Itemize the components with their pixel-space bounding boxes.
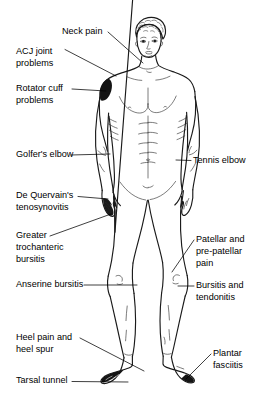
leader-tennis-elbow	[176, 160, 191, 161]
label-golfers-elbow: Golfer's elbow	[16, 149, 74, 159]
label-tarsal-tunnel: Tarsal tunnel	[16, 375, 68, 385]
anatomical-pain-diagram: Neck pain ACJ joint problems Rotator cuf…	[0, 0, 265, 403]
label-tennis-elbow: Tennis elbow	[193, 155, 246, 165]
label-anserine-bursitis: Anserine bursitis	[16, 279, 84, 289]
label-neck-pain: Neck pain	[62, 26, 102, 36]
diagram-canvas: Neck pain ACJ joint problems Rotator cuf…	[0, 0, 265, 403]
leader-tarsal-tunnel	[72, 382, 128, 383]
